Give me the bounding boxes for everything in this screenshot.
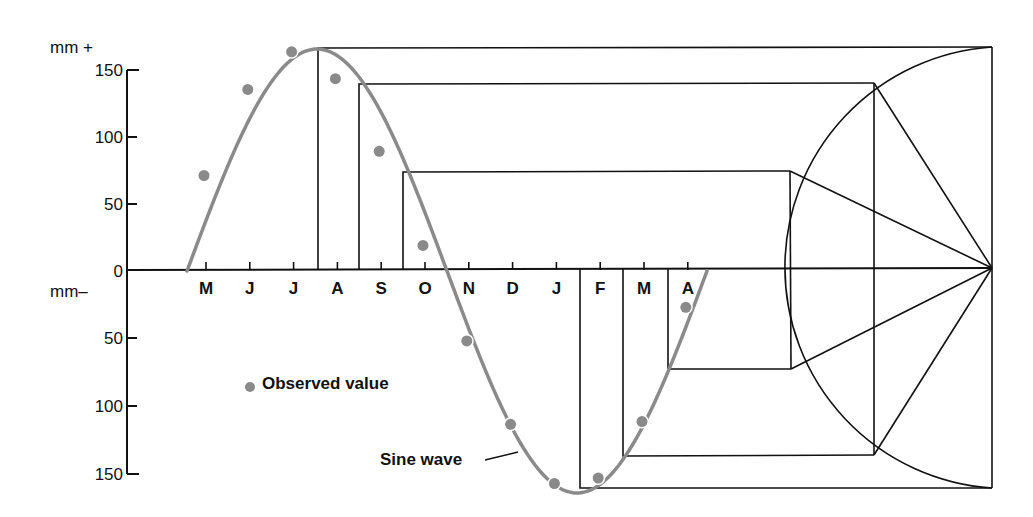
observed-value-dot <box>593 473 604 484</box>
observed-value-dot <box>286 46 297 57</box>
y-tick-50-pos: 50 <box>104 195 123 214</box>
month-label: J <box>289 279 298 298</box>
observed-value-dot <box>374 146 385 157</box>
chart-canvas: mm + mm– 150 100 50 0 50 100 150 MJJASON… <box>0 0 1033 517</box>
month-label: S <box>376 279 387 298</box>
month-label: O <box>418 279 431 298</box>
month-label: M <box>199 279 213 298</box>
y-tick-100-pos: 100 <box>95 128 123 147</box>
observed-value-dot <box>242 84 253 95</box>
y-tick-0: 0 <box>114 262 123 281</box>
x-axis-zero-line <box>127 268 992 270</box>
sine-wave-curve <box>187 49 707 493</box>
legend-dot-icon <box>245 382 255 392</box>
observed-value-dot <box>680 302 691 313</box>
y-unit-negative-label: mm– <box>50 282 88 301</box>
y-tick-150-pos: 150 <box>95 61 123 80</box>
y-tick-50-neg: 50 <box>104 329 123 348</box>
legend-observed: Observed value <box>245 374 389 393</box>
month-label: N <box>463 279 475 298</box>
observed-value-dot <box>505 419 516 430</box>
sine-wave-label: Sine wave <box>380 450 462 469</box>
month-label: F <box>595 279 605 298</box>
observed-value-dot <box>330 73 341 84</box>
legend-observed-label: Observed value <box>262 374 389 393</box>
y-axis: 150 100 50 0 50 100 150 <box>95 61 139 484</box>
y-tick-100-neg: 100 <box>95 397 123 416</box>
month-label: J <box>245 279 254 298</box>
observed-value-dot <box>461 335 472 346</box>
y-unit-positive-label: mm + <box>50 38 93 57</box>
observed-value-dot <box>418 240 429 251</box>
month-label: D <box>506 279 518 298</box>
observed-value-dot <box>637 416 648 427</box>
month-label: A <box>331 279 343 298</box>
sine-wave-leader-line <box>485 452 518 460</box>
month-label: M <box>637 279 651 298</box>
month-label: A <box>682 279 694 298</box>
observed-value-dot <box>199 170 210 181</box>
month-label: J <box>552 279 561 298</box>
sine-wave-annotation: Sine wave <box>380 450 518 469</box>
observed-value-dot <box>549 478 560 489</box>
y-tick-150-neg: 150 <box>95 465 123 484</box>
